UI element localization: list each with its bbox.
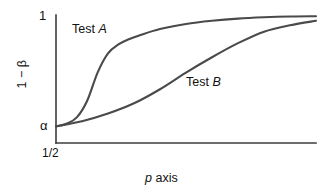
series-annotation-test-b-prefix: Test xyxy=(186,75,212,89)
x-axis-title-symbol: p xyxy=(145,171,152,185)
x-axis-tick-origin: 1/2 xyxy=(42,147,59,159)
series-annotation-test-b-symbol: B xyxy=(212,75,220,89)
series-annotation-test-a: Test A xyxy=(72,23,107,36)
series-annotation-test-a-prefix: Test xyxy=(72,22,98,36)
power-curve-figure: 1 α 1/2 1 − β p axis Test A Test B xyxy=(0,0,329,193)
x-axis-title-rest: axis xyxy=(152,171,178,185)
y-axis-title: 1 − β xyxy=(16,44,29,104)
y-axis-tick-top: 1 xyxy=(39,9,46,22)
y-axis-tick-alpha: α xyxy=(40,119,48,132)
y-axis-title-prefix: 1 − xyxy=(15,67,29,88)
curve-test-b xyxy=(56,21,316,127)
series-annotation-test-a-symbol: A xyxy=(98,22,106,36)
x-axis-title: p axis xyxy=(145,172,178,185)
series-annotation-test-b: Test B xyxy=(186,76,221,89)
chart-canvas xyxy=(0,0,329,193)
y-axis-title-symbol: β xyxy=(15,60,29,67)
